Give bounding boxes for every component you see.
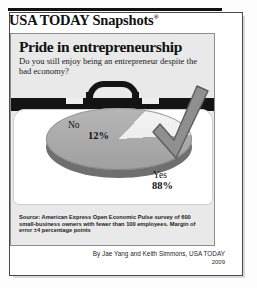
masthead-brand: USA TODAY Snapshots® — [9, 12, 225, 29]
byline: By Jae Yang and Keith Simmons, USA TODAY — [9, 250, 233, 257]
copyright-year: 2009 — [9, 259, 233, 265]
content-panel: Pride in entrepreneurship Do you still e… — [10, 33, 215, 246]
checkmark-icon — [147, 82, 211, 166]
registered-mark-icon: ® — [154, 13, 159, 21]
snapshot-infographic: USA TODAY Snapshots® Pride in entreprene… — [0, 0, 257, 288]
masthead-divider — [8, 8, 222, 11]
masthead-brand-text: USA TODAY Snapshots — [9, 12, 154, 28]
pie-value-yes: 88% — [152, 180, 173, 191]
pie-value-no: 12% — [88, 130, 109, 141]
pie-label-no: No — [68, 120, 80, 130]
pie-label-yes: Yes — [153, 170, 167, 180]
source-note: Source: American Express Open Economic P… — [19, 214, 208, 234]
survey-question: Do you still enjoy being an entrepreneur… — [19, 57, 211, 76]
page-title: Pride in entrepreneurship — [19, 38, 209, 56]
